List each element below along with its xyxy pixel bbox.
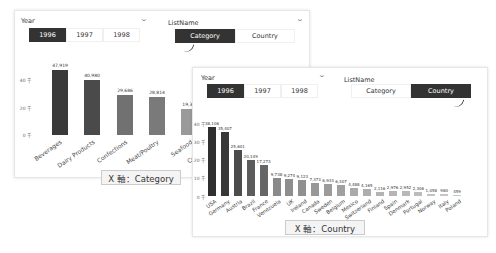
pointer-arrow-icon bbox=[454, 97, 465, 109]
bar-ireland[interactable] bbox=[298, 180, 306, 196]
year-1998-button[interactable]: 1998 bbox=[103, 28, 140, 42]
x-axis-caption: X 軸：Category bbox=[101, 170, 181, 185]
listname-country-button[interactable]: Country bbox=[235, 29, 295, 43]
bar-mexico[interactable] bbox=[350, 188, 358, 196]
bar-denmark[interactable] bbox=[402, 191, 410, 196]
bar-canada[interactable] bbox=[311, 183, 319, 196]
bar-france[interactable] bbox=[260, 165, 268, 196]
bar-spain[interactable] bbox=[389, 191, 397, 196]
year-1996-button[interactable]: 1996 bbox=[207, 84, 244, 98]
bar-venezuela[interactable] bbox=[273, 178, 281, 196]
bar-finland[interactable] bbox=[376, 192, 384, 196]
listname-slicer-label: ListName bbox=[344, 76, 375, 84]
value-label: 29,686 bbox=[111, 88, 139, 93]
value-label: 459 bbox=[447, 189, 467, 194]
bar-usa[interactable] bbox=[208, 127, 216, 196]
year-1996-button[interactable]: 1996 bbox=[29, 28, 66, 42]
y-tick: 10 千 bbox=[191, 175, 205, 181]
chevron-down-icon[interactable]: ⌄ bbox=[140, 15, 148, 23]
y-tick: 20 千 bbox=[191, 157, 205, 163]
year-1997-button[interactable]: 1997 bbox=[66, 28, 103, 42]
year-1998-button[interactable]: 1998 bbox=[281, 84, 318, 98]
value-label: 28,814 bbox=[143, 90, 171, 95]
value-label: 35,407 bbox=[215, 126, 235, 131]
x-label: Confections bbox=[95, 138, 128, 164]
value-label: 17,273 bbox=[254, 159, 274, 164]
y-tick: 40 千 bbox=[17, 77, 31, 83]
bar-dairy-products[interactable] bbox=[84, 80, 100, 135]
y-tick: 30 千 bbox=[191, 139, 205, 145]
bar-germany[interactable] bbox=[221, 132, 229, 196]
pointer-arrow-icon bbox=[184, 42, 195, 54]
chevron-down-icon[interactable]: ⌄ bbox=[296, 15, 304, 23]
listname-country-button[interactable]: Country bbox=[411, 84, 471, 98]
bar-beverages[interactable] bbox=[52, 70, 68, 135]
y-tick: 20 千 bbox=[17, 105, 31, 111]
value-label: 40,980 bbox=[78, 73, 106, 78]
y-tick: 0 千 bbox=[191, 194, 205, 200]
year-slicer-label: Year bbox=[201, 74, 215, 82]
value-label: 25,601 bbox=[228, 144, 248, 149]
bar-norway[interactable] bbox=[427, 194, 435, 196]
bar-confections[interactable] bbox=[117, 95, 133, 135]
x-axis-caption: X 軸：Country bbox=[285, 220, 365, 235]
bar-meat-poultry[interactable] bbox=[149, 97, 165, 135]
value-label: 47,919 bbox=[46, 63, 74, 68]
x-label: Beverages bbox=[33, 138, 63, 162]
listname-slicer-label: ListName bbox=[168, 19, 199, 27]
year-slicer-label: Year bbox=[21, 17, 35, 25]
bar-uk[interactable] bbox=[285, 179, 293, 196]
chevron-down-icon[interactable]: ⌄ bbox=[318, 71, 326, 79]
bar-brazil[interactable] bbox=[247, 160, 255, 196]
bar-sweden[interactable] bbox=[324, 184, 332, 196]
x-label: Meat/Poultry bbox=[125, 138, 160, 165]
year-1997-button[interactable]: 1997 bbox=[244, 84, 281, 98]
bar-italy[interactable] bbox=[440, 194, 448, 196]
y-tick: 0 千 bbox=[17, 132, 31, 138]
listname-category-button[interactable]: Category bbox=[351, 84, 411, 98]
listname-category-button[interactable]: Category bbox=[175, 29, 235, 43]
bar-poland[interactable] bbox=[453, 195, 461, 196]
country-report-panel: Year ⌄ 1996 1997 1998 ListName Category … bbox=[192, 67, 488, 237]
